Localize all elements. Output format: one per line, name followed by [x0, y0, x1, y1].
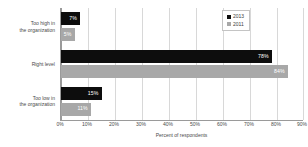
bar-group-too-low: 15% 11% — [61, 83, 303, 120]
x-axis-ticks: 0% 10% 20% 30% 40% 50% 60% 70% 80% 90% — [60, 121, 303, 131]
bar-2011-too-low: 11% — [61, 103, 91, 116]
category-axis-labels: Too high in the organization Right level… — [0, 8, 58, 120]
x-tick-80: 80% — [271, 121, 281, 127]
legend-swatch-icon — [227, 15, 231, 19]
bar-group-right-level: 78% 84% — [61, 45, 303, 82]
category-label-line: the organization — [19, 27, 55, 33]
category-label-line: Right level — [32, 61, 55, 67]
bar-value-label: 84% — [274, 69, 288, 74]
legend-item-2013: 2013 — [227, 14, 244, 19]
bar-2013-too-high: 7% — [61, 12, 80, 25]
x-tick-60: 60% — [217, 121, 227, 127]
bar-value-label: 11% — [77, 106, 90, 111]
bar-slot: 11% — [61, 103, 303, 116]
legend-item-2011: 2011 — [227, 22, 244, 27]
bar-slot: 7% — [61, 12, 303, 25]
x-tick-70: 70% — [244, 121, 254, 127]
bar-2011-too-high: 5% — [61, 28, 75, 41]
bar-slot: 84% — [61, 65, 303, 78]
bar-value-label: 78% — [258, 54, 272, 59]
bar-slot: 5% — [61, 28, 303, 41]
bar-value-label: 15% — [88, 91, 102, 96]
bar-chart: Too high in the organization Right level… — [0, 0, 308, 147]
bar-group-too-high: 7% 5% — [61, 8, 303, 45]
category-label-too-high: Too high in the organization — [0, 8, 55, 45]
x-tick-40: 40% — [163, 121, 173, 127]
category-label-too-low: Too low in the organization — [0, 83, 55, 120]
bar-value-label: 5% — [64, 32, 75, 37]
legend-swatch-icon — [227, 22, 231, 26]
bar-value-label: 7% — [69, 16, 80, 21]
bar-2013-too-low: 15% — [61, 87, 102, 100]
legend-label: 2011 — [233, 22, 244, 27]
bar-slot: 15% — [61, 87, 303, 100]
x-tick-50: 50% — [190, 121, 200, 127]
bar-slot: 78% — [61, 50, 303, 63]
x-tick-20: 20% — [109, 121, 119, 127]
plot-area: 7% 5% 78% 84% — [60, 8, 303, 120]
gridline-90 — [303, 8, 304, 120]
bar-2011-right-level: 84% — [61, 65, 288, 78]
category-label-line: the organization — [19, 101, 55, 107]
legend-label: 2013 — [233, 14, 244, 19]
x-tick-30: 30% — [136, 121, 146, 127]
x-tick-10: 10% — [82, 121, 92, 127]
bar-2013-right-level: 78% — [61, 50, 272, 63]
legend: 2013 2011 — [222, 10, 250, 31]
x-axis-title: Percent of respondents — [60, 132, 303, 138]
x-tick-90: 90% — [297, 121, 307, 127]
x-tick-0: 0% — [56, 121, 63, 127]
category-label-right-level: Right level — [0, 45, 55, 82]
bar-groups: 7% 5% 78% 84% — [61, 8, 303, 120]
